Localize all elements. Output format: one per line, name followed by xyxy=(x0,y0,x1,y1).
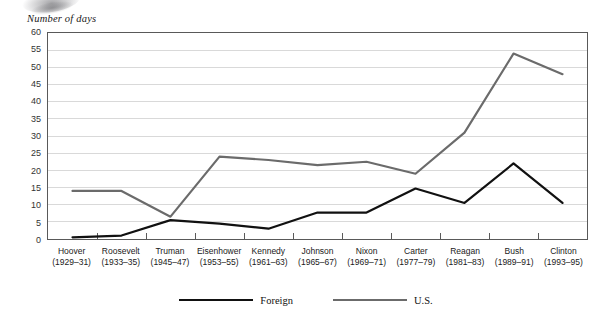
y-tick-label: 50 xyxy=(7,62,41,72)
series-lines xyxy=(48,33,587,239)
legend-item-foreign: Foreign xyxy=(179,295,293,306)
legend-line-swatch xyxy=(179,299,253,301)
y-tick-label: 15 xyxy=(7,183,41,193)
legend-item-us: U.S. xyxy=(333,295,433,306)
x-axis-tick-labels: Hoover(1929–31)Roosevelt(1933–35)Truman(… xyxy=(47,246,588,280)
y-tick-label: 25 xyxy=(7,148,41,158)
x-tick-president: Eisenhower xyxy=(197,246,241,256)
legend-line-swatch xyxy=(333,299,407,301)
legend-label: U.S. xyxy=(414,295,433,306)
chart-plot-area xyxy=(47,32,588,240)
x-tick-president: Johnson xyxy=(301,246,333,256)
y-tick-label: 10 xyxy=(7,200,41,210)
x-tick-president: Bush xyxy=(505,246,524,256)
legend-label: Foreign xyxy=(260,295,293,306)
x-tick-president: Reagan xyxy=(450,246,480,256)
chart-legend: ForeignU.S. xyxy=(0,291,612,309)
y-axis-tick-labels: 051015202530354045505560 xyxy=(7,32,41,240)
y-tick-label: 30 xyxy=(7,131,41,141)
y-tick-label: 55 xyxy=(7,44,41,54)
y-tick-label: 20 xyxy=(7,166,41,176)
y-tick-label: 40 xyxy=(7,96,41,106)
y-tick-label: 35 xyxy=(7,114,41,124)
x-tick-president: Kennedy xyxy=(252,246,286,256)
x-tick-president: Carter xyxy=(404,246,428,256)
y-tick-label: 5 xyxy=(7,218,41,228)
x-tick-president: Clinton xyxy=(550,246,576,256)
y-tick-label: 45 xyxy=(7,79,41,89)
y-axis-title: Number of days xyxy=(27,13,96,24)
x-tick-president: Truman xyxy=(155,246,184,256)
x-tick-president: Hoover xyxy=(58,246,85,256)
x-tick-president: Roosevelt xyxy=(102,246,140,256)
x-tick-president: Nixon xyxy=(356,246,378,256)
y-tick-label: 0 xyxy=(7,235,41,245)
x-tick-label-clinton: Clinton(1993–95) xyxy=(532,246,594,268)
y-tick-label: 60 xyxy=(7,27,41,37)
x-tick-years: (1993–95) xyxy=(532,257,594,268)
